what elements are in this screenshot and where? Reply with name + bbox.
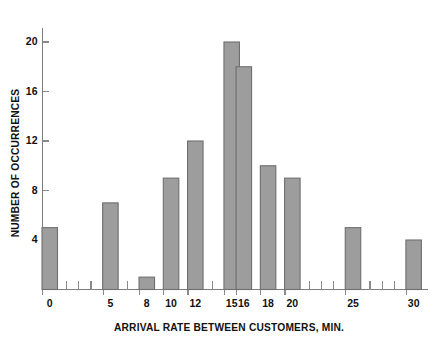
x-tick-label-16: 16 [238, 297, 250, 309]
y-tick-label-12: 12 [26, 134, 38, 146]
y-axis-title-text: NUMBER OF OCCURRENCES [10, 89, 21, 238]
bar-series [42, 42, 421, 290]
bar-0 [42, 228, 58, 290]
bar-16 [236, 67, 252, 290]
x-tick-label-8: 8 [144, 297, 150, 309]
y-tick-label-16: 16 [26, 85, 38, 97]
histogram-figure: NUMBER OF OCCURRENCES 48121620 058101215… [0, 0, 438, 340]
bar-20 [285, 178, 301, 289]
bar-5 [103, 203, 119, 290]
x-tick-label-30: 30 [408, 297, 420, 309]
x-tick-label-25: 25 [347, 297, 359, 309]
bar-12 [188, 141, 204, 290]
x-axis-title-text: ARRIVAL RATE BETWEEN CUSTOMERS, MIN. [114, 322, 344, 333]
y-tick-label-4: 4 [32, 233, 38, 245]
x-axis-tick-labels: 0581012151618202530 [47, 297, 420, 309]
x-tick-label-15: 15 [226, 297, 238, 309]
bar-25 [345, 228, 361, 290]
x-tick-label-20: 20 [287, 297, 299, 309]
x-tick-label-10: 10 [165, 297, 177, 309]
x-tick-label-12: 12 [189, 297, 201, 309]
x-tick-label-5: 5 [107, 297, 113, 309]
y-tick-label-8: 8 [32, 184, 38, 196]
bar-10 [163, 178, 179, 289]
x-tick-label-18: 18 [262, 297, 274, 309]
bar-30 [406, 240, 422, 290]
x-tick-label-0: 0 [47, 297, 53, 309]
y-axis-ticks: 48121620 [26, 35, 49, 245]
bar-8 [139, 277, 155, 289]
bar-18 [260, 166, 276, 290]
y-axis-title: NUMBER OF OCCURRENCES [10, 89, 21, 238]
y-tick-label-20: 20 [26, 35, 38, 47]
chart-canvas: NUMBER OF OCCURRENCES 48121620 058101215… [0, 0, 438, 340]
